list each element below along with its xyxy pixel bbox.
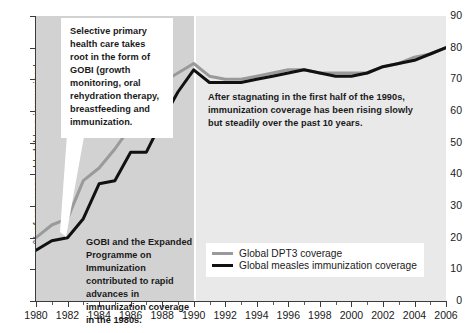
x-tick-1980 <box>36 302 37 307</box>
y-tick-50 <box>30 143 36 144</box>
y-tick-10 <box>30 269 36 270</box>
x-tick-1993 <box>241 302 242 305</box>
x-tick-1982 <box>68 302 69 307</box>
y-tick-40 <box>30 174 36 175</box>
y-tick-label-0: 0 <box>436 294 462 306</box>
x-tick-2005 <box>430 302 431 305</box>
x-tick-2006 <box>446 302 447 307</box>
legend-swatch-dpt3 <box>212 252 233 255</box>
x-tick-2001 <box>367 302 368 305</box>
legend-swatch-measles <box>212 264 233 267</box>
y-tick-70 <box>30 79 36 80</box>
y-tick-label-30: 30 <box>436 199 462 211</box>
y-tick-label-20: 20 <box>436 231 462 243</box>
callout-gobi-intro: Selective primary health care takes root… <box>61 18 173 138</box>
y-tick-label-50: 50 <box>436 136 462 148</box>
x-tick-2002 <box>383 302 384 307</box>
y-tick-90 <box>30 16 36 17</box>
y-tick-label-10: 10 <box>436 262 462 274</box>
x-tick-1998 <box>320 302 321 307</box>
y-tick-30 <box>30 206 36 207</box>
y-tick-20 <box>30 238 36 239</box>
x-tick-1997 <box>304 302 305 305</box>
x-tick-1995 <box>273 302 274 305</box>
x-tick-1991 <box>210 302 211 305</box>
x-tick-1994 <box>257 302 258 307</box>
x-tick-1981 <box>52 302 53 305</box>
y-tick-60 <box>30 111 36 112</box>
legend-label-dpt3: Global DPT3 coverage <box>239 248 342 259</box>
y-tick-label-70: 70 <box>436 72 462 84</box>
x-tick-1996 <box>288 302 289 307</box>
x-tick-1992 <box>225 302 226 307</box>
chart-legend: Global DPT3 coverage Global measles immu… <box>206 243 424 277</box>
x-tick-label-2006: 2006 <box>426 309 466 321</box>
y-tick-label-80: 80 <box>436 41 462 53</box>
y-tick-label-60: 60 <box>436 104 462 116</box>
legend-item-dpt3: Global DPT3 coverage <box>212 248 417 259</box>
x-tick-2003 <box>399 302 400 305</box>
legend-label-measles: Global measles immunization coverage <box>239 260 417 271</box>
callout-stagnating: After stagnating in the first half of th… <box>204 88 428 133</box>
y-tick-80 <box>30 48 36 49</box>
y-axis-line <box>35 16 36 302</box>
x-tick-2000 <box>351 302 352 307</box>
y-tick-label-90: 90 <box>436 9 462 21</box>
x-tick-1999 <box>336 302 337 305</box>
callout-gobi-expanded: GOBI and the Expanded Programme on Immun… <box>82 232 200 331</box>
y-tick-label-40: 40 <box>436 167 462 179</box>
legend-item-measles: Global measles immunization coverage <box>212 260 417 271</box>
x-tick-2004 <box>415 302 416 307</box>
